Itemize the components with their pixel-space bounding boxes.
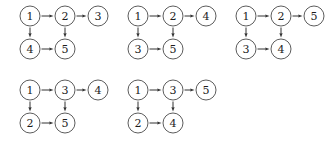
node-4: 4 xyxy=(88,80,108,100)
edge-3-to-5 xyxy=(150,47,162,50)
arrowhead-icon xyxy=(136,33,139,37)
diagram-3: 12534 xyxy=(236,6,324,59)
arrowhead-icon xyxy=(49,47,53,50)
edge-1-to-3 xyxy=(244,28,247,38)
diagram-1: 12345 xyxy=(20,6,108,59)
node-1: 1 xyxy=(128,6,148,26)
node-label: 5 xyxy=(311,10,318,23)
node-label: 5 xyxy=(170,43,177,56)
arrowhead-icon xyxy=(157,88,161,91)
node-3: 3 xyxy=(55,80,75,100)
node-5: 5 xyxy=(304,6,324,26)
edge-1-to-2 xyxy=(150,14,162,17)
arrowhead-icon xyxy=(298,14,302,17)
arrowhead-icon xyxy=(82,88,86,91)
edge-4-to-5 xyxy=(42,47,54,50)
node-label: 4 xyxy=(278,43,285,56)
edge-3-to-5 xyxy=(185,88,195,91)
node-label: 3 xyxy=(170,84,177,97)
diagram-5: 13524 xyxy=(128,80,216,133)
node-label: 5 xyxy=(203,84,210,97)
edge-2-to-3 xyxy=(77,14,87,17)
edge-2-to-5 xyxy=(171,28,174,38)
node-2: 2 xyxy=(163,6,183,26)
node-label: 3 xyxy=(135,43,142,56)
arrowhead-icon xyxy=(171,107,174,111)
edge-1-to-4 xyxy=(28,28,31,38)
arrowhead-icon xyxy=(49,121,53,124)
arrowhead-icon xyxy=(49,88,53,91)
arrowhead-icon xyxy=(49,14,53,17)
node-label: 2 xyxy=(278,10,285,23)
node-1: 1 xyxy=(20,80,40,100)
node-1: 1 xyxy=(236,6,256,26)
node-5: 5 xyxy=(196,80,216,100)
node-1: 1 xyxy=(128,80,148,100)
node-label: 3 xyxy=(243,43,250,56)
node-3: 3 xyxy=(88,6,108,26)
node-label: 3 xyxy=(62,84,69,97)
arrowhead-icon xyxy=(82,14,86,17)
node-label: 1 xyxy=(243,10,250,23)
node-4: 4 xyxy=(271,39,291,59)
edge-3-to-5 xyxy=(63,102,66,112)
node-2: 2 xyxy=(271,6,291,26)
diagram-2: 12435 xyxy=(128,6,216,59)
arrowhead-icon xyxy=(265,14,269,17)
node-1: 1 xyxy=(20,6,40,26)
node-label: 5 xyxy=(62,117,69,130)
edge-3-to-4 xyxy=(77,88,87,91)
arrowhead-icon xyxy=(136,107,139,111)
arrowhead-icon xyxy=(244,33,247,37)
edge-2-to-4 xyxy=(185,14,195,17)
node-label: 1 xyxy=(27,84,34,97)
edge-1-to-3 xyxy=(150,88,162,91)
edge-2-to-5 xyxy=(42,121,54,124)
node-label: 3 xyxy=(95,10,102,23)
node-5: 5 xyxy=(163,39,183,59)
arrowhead-icon xyxy=(63,33,66,37)
node-5: 5 xyxy=(55,113,75,133)
arrowhead-icon xyxy=(157,47,161,50)
edge-2-to-4 xyxy=(150,121,162,124)
node-4: 4 xyxy=(196,6,216,26)
node-2: 2 xyxy=(55,6,75,26)
arrowhead-icon xyxy=(63,107,66,111)
arrowhead-icon xyxy=(171,33,174,37)
node-3: 3 xyxy=(236,39,256,59)
arrowhead-icon xyxy=(28,33,31,37)
diagram-figure: 1234512435125341342513524 xyxy=(0,0,335,148)
edge-3-to-4 xyxy=(258,47,270,50)
arrowhead-icon xyxy=(157,14,161,17)
graph-diagram-canvas: 1234512435125341342513524 xyxy=(0,0,335,148)
node-label: 2 xyxy=(62,10,69,23)
edge-1-to-3 xyxy=(42,88,54,91)
edge-2-to-5 xyxy=(293,14,303,17)
node-label: 2 xyxy=(170,10,177,23)
node-2: 2 xyxy=(128,113,148,133)
arrowhead-icon xyxy=(28,107,31,111)
node-label: 4 xyxy=(27,43,34,56)
arrowhead-icon xyxy=(190,14,194,17)
diagram-4: 13425 xyxy=(20,80,108,133)
node-5: 5 xyxy=(55,39,75,59)
node-label: 5 xyxy=(62,43,69,56)
node-label: 2 xyxy=(135,117,142,130)
node-3: 3 xyxy=(163,80,183,100)
arrowhead-icon xyxy=(190,88,194,91)
node-label: 1 xyxy=(135,84,142,97)
arrowhead-icon xyxy=(279,33,282,37)
edge-2-to-4 xyxy=(279,28,282,38)
node-label: 1 xyxy=(27,10,34,23)
node-label: 4 xyxy=(170,117,177,130)
edge-1-to-2 xyxy=(258,14,270,17)
edge-1-to-2 xyxy=(42,14,54,17)
node-label: 4 xyxy=(95,84,102,97)
node-label: 1 xyxy=(135,10,142,23)
edge-1-to-3 xyxy=(136,28,139,38)
node-3: 3 xyxy=(128,39,148,59)
node-label: 2 xyxy=(27,117,34,130)
edge-1-to-2 xyxy=(28,102,31,112)
arrowhead-icon xyxy=(157,121,161,124)
edge-1-to-2 xyxy=(136,102,139,112)
